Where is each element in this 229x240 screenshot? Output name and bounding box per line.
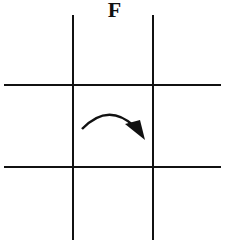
grid-diagram	[0, 0, 229, 240]
arrowhead-icon	[125, 120, 145, 140]
curved-arrow-icon	[82, 115, 134, 129]
diagram-canvas: F	[0, 0, 229, 240]
